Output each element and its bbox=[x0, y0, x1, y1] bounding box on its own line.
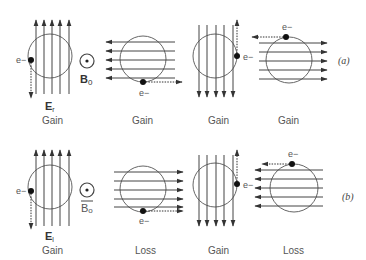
orbit-circle bbox=[266, 37, 312, 83]
panel-b2: e− Loss bbox=[114, 166, 183, 256]
panel-a1: e− B0 Er Gain bbox=[16, 20, 94, 126]
electron-dot bbox=[234, 181, 240, 187]
b-field-label: B0 bbox=[80, 73, 93, 87]
electron-dot bbox=[289, 161, 295, 167]
row-label-a: (a) bbox=[338, 55, 350, 67]
field-lines-up bbox=[36, 150, 69, 226]
panel-a4: e− Gain bbox=[252, 22, 327, 126]
electron-label: e− bbox=[243, 180, 253, 190]
e-field-label: Er bbox=[45, 100, 55, 113]
b-field-label: Bo bbox=[81, 202, 93, 215]
panel-a2: e− Gain bbox=[106, 36, 182, 126]
row-a: e− B0 Er Gain e− Gain bbox=[16, 20, 350, 126]
electron-dot bbox=[234, 53, 240, 59]
electron-dot bbox=[28, 188, 34, 194]
result-label: Gain bbox=[278, 115, 299, 126]
panel-b3: e− Gain bbox=[193, 150, 253, 256]
field-lines-left bbox=[255, 170, 323, 206]
electron-label: e− bbox=[139, 216, 149, 226]
result-label: Gain bbox=[42, 245, 63, 256]
result-label: Loss bbox=[283, 245, 304, 256]
result-label: Gain bbox=[208, 115, 229, 126]
orbit-circle bbox=[120, 36, 166, 82]
result-label: Loss bbox=[135, 245, 156, 256]
panel-b4: e− Loss bbox=[255, 149, 323, 256]
electron-label: e− bbox=[243, 52, 253, 62]
electron-dot bbox=[28, 57, 34, 63]
orbit-circle bbox=[193, 163, 237, 207]
electron-dot bbox=[283, 34, 289, 40]
result-label: Gain bbox=[132, 115, 153, 126]
electron-label: e− bbox=[139, 88, 149, 98]
diagram: e− B0 Er Gain e− Gain bbox=[0, 0, 366, 260]
electron-label: e− bbox=[288, 149, 298, 159]
field-lines-left bbox=[106, 42, 175, 78]
electron-label: e− bbox=[282, 22, 292, 32]
electron-label: e− bbox=[16, 186, 26, 196]
result-label: Gain bbox=[42, 115, 63, 126]
electron-label: e− bbox=[16, 55, 26, 65]
panel-b1: e− Bo El Gain bbox=[16, 150, 94, 256]
field-lines-up bbox=[36, 20, 69, 94]
orbit-circle bbox=[120, 166, 166, 212]
orbit-circle bbox=[28, 34, 72, 78]
e-field-label: El bbox=[45, 230, 54, 243]
orbit-circle bbox=[193, 34, 237, 78]
result-label: Gain bbox=[208, 245, 229, 256]
panel-a3: e− Gain bbox=[193, 20, 253, 126]
row-b: e− Bo El Gain e− Loss bbox=[16, 149, 354, 256]
electron-dot bbox=[140, 79, 146, 85]
row-label-b: (b) bbox=[342, 191, 354, 203]
field-lines-down bbox=[199, 25, 233, 97]
diagram-canvas: e− B0 Er Gain e− Gain bbox=[0, 0, 366, 260]
orbit-circle bbox=[28, 165, 72, 209]
electron-dot bbox=[140, 208, 146, 214]
